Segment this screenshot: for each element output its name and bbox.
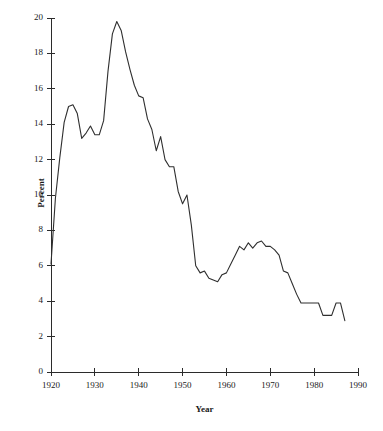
chart-axes: [51, 18, 358, 372]
x-tick-label: 1970: [250, 381, 290, 390]
data-series-line: [51, 22, 345, 321]
x-tick-label: 1940: [119, 381, 159, 390]
y-tick-label: 2: [11, 332, 43, 341]
y-axis-title: Percent: [36, 163, 46, 223]
chart-plot-area: [0, 0, 383, 431]
x-tick-label: 1980: [294, 381, 334, 390]
y-tick-label: 6: [11, 261, 43, 270]
y-tick-label: 14: [11, 119, 43, 128]
x-axis-title: Year: [165, 404, 245, 414]
line-chart: 02468101214161820 1920193019401950196019…: [0, 0, 383, 431]
x-tick-label: 1950: [163, 381, 203, 390]
y-tick-label: 18: [11, 48, 43, 57]
x-tick-label: 1920: [31, 381, 71, 390]
y-tick-label: 20: [11, 13, 43, 22]
y-tick-label: 0: [11, 367, 43, 376]
y-tick-label: 8: [11, 225, 43, 234]
x-tick-label: 1960: [206, 381, 246, 390]
x-tick-label: 1990: [338, 381, 378, 390]
x-tick-label: 1930: [75, 381, 115, 390]
y-tick-label: 4: [11, 296, 43, 305]
y-tick-label: 16: [11, 84, 43, 93]
